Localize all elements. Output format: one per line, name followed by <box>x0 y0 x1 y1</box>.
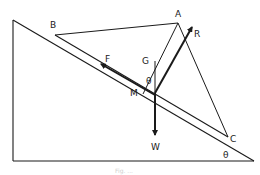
label-w: W <box>151 142 160 152</box>
label-m: M <box>130 88 138 98</box>
label-b: B <box>50 20 56 30</box>
label-theta-base: θ <box>223 150 229 160</box>
label-theta-angle-gm: θ <box>146 76 152 86</box>
label-f: F <box>105 54 110 64</box>
figure-caption: Fig. ... <box>115 167 133 175</box>
force-diagram: A B C G M F R W θ θ Fig. ... <box>0 0 260 175</box>
string-ba <box>55 23 178 35</box>
label-a: A <box>175 9 182 19</box>
label-c: C <box>230 134 236 144</box>
label-g: G <box>142 56 149 66</box>
rod-bc <box>55 35 228 137</box>
label-r: R <box>194 29 200 39</box>
force-r-arrow <box>155 27 192 93</box>
